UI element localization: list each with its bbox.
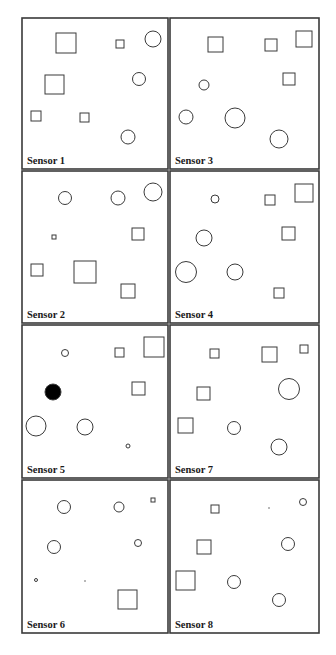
panel-label: Sensor 5 xyxy=(27,464,65,475)
panel-label: Sensor 1 xyxy=(27,155,65,166)
panel-border xyxy=(22,18,168,169)
filled-circle-marker xyxy=(45,384,61,400)
panel-border xyxy=(170,171,319,323)
panel-border xyxy=(170,325,319,478)
sensor-panel-1: Sensor 1 xyxy=(22,18,168,169)
panel-label: Sensor 2 xyxy=(27,309,65,320)
panel-border xyxy=(170,480,319,633)
sensor-panel-6: Sensor 6 xyxy=(22,480,168,633)
sensor-panel-8: Sensor 8 xyxy=(170,480,319,633)
panel-border xyxy=(22,325,168,478)
dot-marker xyxy=(268,507,269,508)
sensor-panel-7: Sensor 7 xyxy=(170,325,319,478)
panel-border xyxy=(170,18,319,169)
sensor-panel-3: Sensor 3 xyxy=(170,18,319,169)
panel-border xyxy=(22,171,168,323)
panel-label: Sensor 4 xyxy=(175,309,214,320)
panel-label: Sensor 3 xyxy=(175,155,213,166)
dot-marker xyxy=(84,580,85,581)
sensor-panel-2: Sensor 2 xyxy=(22,171,168,323)
panel-label: Sensor 6 xyxy=(27,619,65,630)
panel-border xyxy=(22,480,168,633)
panel-label: Sensor 8 xyxy=(175,619,213,630)
sensor-panel-4: Sensor 4 xyxy=(170,171,319,323)
sensor-panel-5: Sensor 5 xyxy=(22,325,168,478)
panel-label: Sensor 7 xyxy=(175,464,213,475)
sensor-grid-figure: Sensor 1Sensor 3Sensor 2Sensor 4Sensor 5… xyxy=(0,0,336,655)
